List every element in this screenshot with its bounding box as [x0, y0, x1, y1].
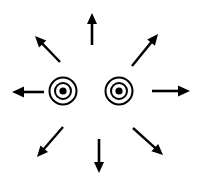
- right-concentric-circle-center-dot: [115, 87, 122, 94]
- left-concentric-circle-center-dot: [59, 87, 66, 94]
- radial-arrow-figure: [0, 0, 207, 177]
- figure-background: [0, 0, 207, 177]
- figure-svg: [0, 0, 207, 177]
